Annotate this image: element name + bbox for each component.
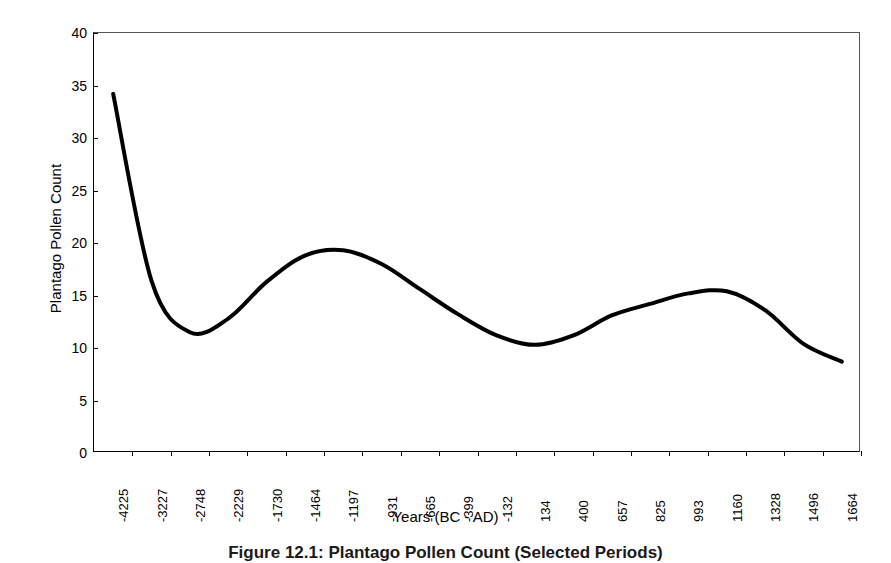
y-tick-label: 40 — [35, 26, 94, 40]
x-tick-mark — [362, 451, 363, 456]
x-tick-label: -1197 — [347, 402, 360, 462]
x-tick-label: -2748 — [194, 402, 207, 462]
x-tick-label: -1464 — [309, 402, 322, 462]
x-tick-label: -4225 — [117, 402, 130, 462]
y-tick-mark — [94, 401, 98, 402]
x-tick-label: 657 — [616, 402, 629, 462]
x-tick-mark — [784, 451, 785, 456]
x-tick-label: 1328 — [769, 402, 782, 462]
figure-caption: Figure 12.1: Plantago Pollen Count (Sele… — [0, 543, 891, 563]
x-tick-label: 400 — [577, 402, 590, 462]
x-tick-label: 825 — [654, 402, 667, 462]
x-tick-mark — [478, 451, 479, 456]
x-tick-label: 993 — [692, 402, 705, 462]
y-tick-mark — [94, 33, 98, 34]
x-tick-mark — [631, 451, 632, 456]
x-tick-label: 134 — [539, 402, 552, 462]
plot-area: 4035302520151050 — [93, 32, 860, 452]
x-tick-label: -132 — [501, 402, 514, 462]
y-tick-label: 15 — [35, 289, 94, 303]
x-tick-mark — [823, 451, 824, 456]
x-tick-mark — [554, 451, 555, 456]
x-tick-mark — [516, 451, 517, 456]
y-tick-label: 35 — [35, 79, 94, 93]
y-tick-mark — [94, 296, 98, 297]
x-tick-label: -1730 — [271, 402, 284, 462]
y-tick-label: 25 — [35, 184, 94, 198]
x-tick-mark — [439, 451, 440, 456]
x-tick-label: 1160 — [731, 402, 744, 462]
x-tick-mark — [247, 451, 248, 456]
x-tick-label: -665 — [424, 402, 437, 462]
y-tick-mark — [94, 138, 98, 139]
x-tick-label: -399 — [462, 402, 475, 462]
x-tick-mark — [401, 451, 402, 456]
x-tick-mark — [593, 451, 594, 456]
x-tick-mark — [171, 451, 172, 456]
x-tick-mark — [861, 451, 862, 456]
x-tick-mark — [669, 451, 670, 456]
x-tick-label: -2229 — [232, 402, 245, 462]
x-tick-mark — [708, 451, 709, 456]
pollen-count-line — [94, 33, 861, 453]
x-tick-mark — [746, 451, 747, 456]
x-tick-label: 1664 — [846, 402, 859, 462]
x-tick-label: -931 — [386, 402, 399, 462]
x-tick-mark — [209, 451, 210, 456]
x-tick-mark — [324, 451, 325, 456]
y-tick-label: 0 — [35, 446, 94, 460]
y-tick-mark — [94, 191, 98, 192]
x-axis-title: Years (BC - AD) — [0, 508, 891, 525]
y-tick-mark — [94, 348, 98, 349]
x-tick-mark — [286, 451, 287, 456]
x-tick-label: -3227 — [156, 402, 169, 462]
y-tick-mark — [94, 243, 98, 244]
y-tick-mark — [94, 86, 98, 87]
y-tick-label: 20 — [35, 236, 94, 250]
curve-path — [113, 94, 842, 362]
y-tick-label: 30 — [35, 131, 94, 145]
y-tick-label: 10 — [35, 341, 94, 355]
x-tick-label: 1496 — [807, 402, 820, 462]
y-tick-label: 5 — [35, 394, 94, 408]
x-tick-mark — [132, 451, 133, 456]
